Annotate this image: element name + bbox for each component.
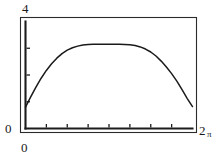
x-axis-max-label-number: 2 [199,123,206,138]
chart-container: 4 0 0 2 π [0,0,217,156]
x-axis-max-label-pi-symbol: π [207,129,212,139]
y-axis-min-label: 0 [5,121,12,136]
x-axis-min-label: 0 [21,140,28,155]
line-chart: 4 0 0 2 π [0,0,217,156]
y-axis-max-label: 4 [22,1,29,16]
